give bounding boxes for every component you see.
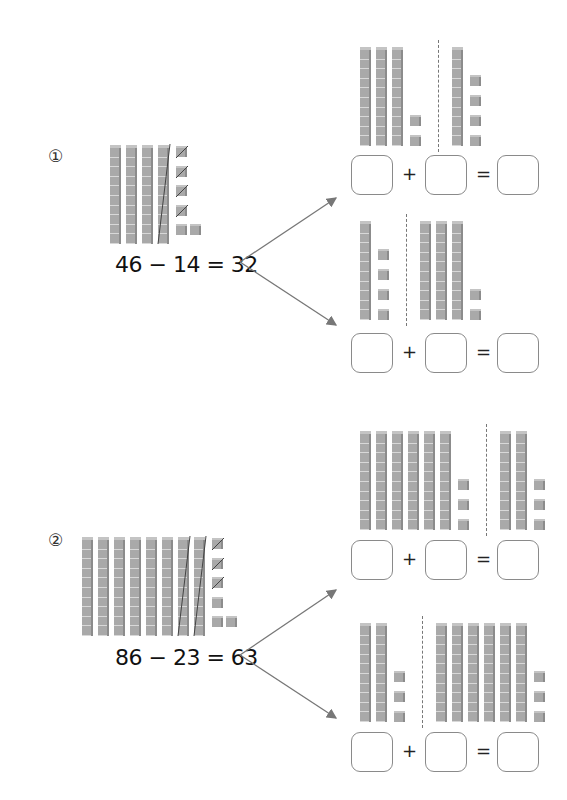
one-cube <box>470 291 481 300</box>
one-cube <box>470 97 481 106</box>
one-cube <box>534 673 545 682</box>
decomposition-blocks <box>360 212 540 322</box>
ten-rod <box>360 626 371 722</box>
dashed-divider <box>406 214 407 326</box>
answer-box[interactable] <box>351 155 393 195</box>
one-cube <box>410 137 421 146</box>
answer-box[interactable] <box>351 540 393 580</box>
answer-box[interactable] <box>497 732 539 772</box>
one-cube <box>458 521 469 530</box>
ten-rod <box>360 50 371 146</box>
dashed-divider <box>438 40 439 152</box>
ten-rod <box>468 626 479 722</box>
ten-rod <box>500 434 511 530</box>
one-cube <box>394 713 405 722</box>
one-cube <box>378 291 389 300</box>
answer-box[interactable] <box>497 155 539 195</box>
ten-rod <box>516 626 527 722</box>
decomposition-blocks <box>360 616 540 726</box>
ten-rod <box>424 434 435 530</box>
one-cube <box>458 481 469 490</box>
plus-sign: + <box>402 341 417 362</box>
dashed-divider <box>422 616 423 728</box>
one-cube <box>534 501 545 510</box>
one-cube <box>470 137 481 146</box>
one-cube <box>470 311 481 320</box>
equals-sign: = <box>476 341 491 362</box>
one-cube <box>378 311 389 320</box>
answer-box[interactable] <box>425 155 467 195</box>
decomposition-blocks <box>360 38 540 138</box>
ten-rod <box>452 224 463 320</box>
ten-rod <box>376 626 387 722</box>
answer-box[interactable] <box>497 333 539 373</box>
ten-rod <box>436 224 447 320</box>
ten-rod <box>376 50 387 146</box>
answer-box[interactable] <box>425 540 467 580</box>
equals-sign: = <box>476 548 491 569</box>
equals-sign: = <box>476 163 491 184</box>
ten-rod <box>360 224 371 320</box>
ten-rod <box>436 626 447 722</box>
one-cube <box>378 271 389 280</box>
ten-rod <box>440 434 451 530</box>
equals-sign: = <box>476 740 491 761</box>
one-cube <box>458 501 469 510</box>
plus-sign: + <box>402 740 417 761</box>
decomposition-blocks <box>360 420 540 530</box>
ten-rod <box>500 626 511 722</box>
answer-box[interactable] <box>351 333 393 373</box>
plus-sign: + <box>402 548 417 569</box>
answer-box[interactable] <box>497 540 539 580</box>
one-cube <box>378 251 389 260</box>
one-cube <box>470 77 481 86</box>
one-cube <box>534 521 545 530</box>
ten-rod <box>420 224 431 320</box>
answer-box[interactable] <box>425 333 467 373</box>
plus-sign: + <box>402 163 417 184</box>
one-cube <box>534 713 545 722</box>
answer-box[interactable] <box>425 732 467 772</box>
ten-rod <box>516 434 527 530</box>
ten-rod <box>392 434 403 530</box>
ten-rod <box>360 434 371 530</box>
ten-rod <box>392 50 403 146</box>
ten-rod <box>408 434 419 530</box>
ten-rod <box>484 626 495 722</box>
ten-rod <box>376 434 387 530</box>
ten-rod <box>452 626 463 722</box>
dashed-divider <box>486 424 487 536</box>
one-cube <box>394 693 405 702</box>
one-cube <box>394 673 405 682</box>
answer-box[interactable] <box>351 732 393 772</box>
one-cube <box>410 117 421 126</box>
one-cube <box>470 117 481 126</box>
one-cube <box>534 481 545 490</box>
ten-rod <box>452 50 463 146</box>
one-cube <box>534 693 545 702</box>
